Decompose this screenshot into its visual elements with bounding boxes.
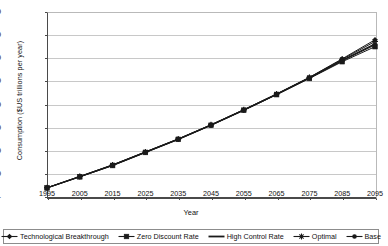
circle-marker — [176, 137, 181, 142]
legend-label: Base — [365, 233, 381, 240]
square-marker — [124, 234, 129, 239]
series-line — [47, 41, 375, 187]
circle-marker — [340, 58, 345, 63]
y-tick-label: 16.00 — [0, 8, 1, 15]
series-line — [47, 45, 375, 188]
legend-label: Technological Breakthrough — [20, 233, 109, 240]
series-optimal — [44, 38, 378, 190]
legend-label: High Control Rate — [227, 233, 284, 240]
circle-marker — [242, 108, 247, 113]
x-tick-label: 2095 — [355, 190, 388, 197]
circle-marker — [274, 92, 279, 97]
circle-icon — [346, 232, 363, 241]
asterisk-icon — [293, 232, 310, 241]
y-tick-label: 2.00 — [0, 170, 1, 177]
legend-item[interactable]: High Control Rate — [208, 232, 284, 241]
series-line — [47, 44, 375, 188]
x-axis-title: Year — [0, 208, 382, 217]
circle-marker — [110, 163, 115, 168]
y-tick-label: 12.00 — [0, 54, 1, 61]
line-icon — [208, 232, 225, 241]
circle-marker — [78, 174, 83, 179]
series-line — [47, 40, 375, 188]
y-tick-label: 6.00 — [0, 124, 1, 131]
y-axis-title: Consumption ($US trillions per year) — [15, 11, 24, 191]
series-high-control-rate — [47, 44, 375, 188]
legend-label: Optimal — [312, 233, 337, 240]
circle-marker — [352, 234, 357, 239]
circle-marker — [307, 76, 312, 81]
series-zero-discount-rate — [45, 44, 378, 190]
y-tick-label: 14.00 — [0, 31, 1, 38]
y-tick-label: 8.00 — [0, 101, 1, 108]
legend-item[interactable]: Optimal — [293, 232, 337, 241]
asterisk-marker — [298, 234, 304, 240]
legend-item[interactable]: Technological Breakthrough — [1, 232, 109, 241]
legend-label: Zero Discount Rate — [137, 233, 199, 240]
diamond-icon — [1, 232, 18, 241]
y-tick-label: 10.00 — [0, 77, 1, 84]
circle-marker — [209, 123, 214, 128]
chart-legend: Technological BreakthroughZero Discount … — [3, 229, 379, 244]
legend-item[interactable]: Base — [346, 232, 381, 241]
series-layer — [47, 12, 375, 197]
series-technological-breakthrough — [44, 37, 378, 191]
circle-marker — [373, 43, 378, 48]
y-tick-label: - — [0, 193, 1, 200]
circle-marker — [143, 150, 148, 155]
legend-item[interactable]: Zero Discount Rate — [118, 232, 199, 241]
series-base — [45, 43, 378, 191]
y-tick-label: 4.00 — [0, 147, 1, 154]
diamond-marker — [7, 234, 13, 240]
square-icon — [118, 232, 135, 241]
